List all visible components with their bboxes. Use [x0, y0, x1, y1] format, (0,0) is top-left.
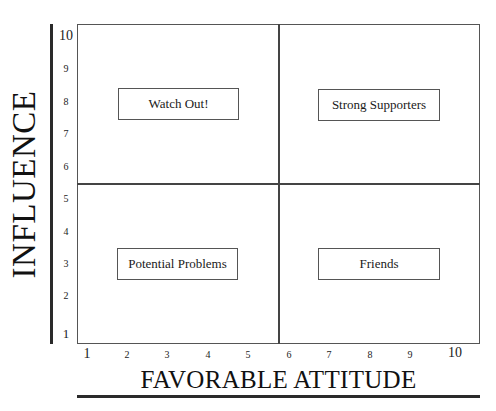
y-tick: 9	[58, 63, 74, 74]
y-tick: 8	[58, 96, 74, 107]
x-tick: 1	[77, 346, 97, 362]
x-axis-rule	[77, 395, 480, 398]
y-tick: 1	[58, 326, 74, 342]
x-tick: 10	[443, 345, 467, 361]
x-tick: 8	[360, 349, 380, 360]
y-axis-title: INFLUENCE	[3, 24, 47, 344]
x-tick: 7	[319, 349, 339, 360]
y-axis-rule	[50, 24, 53, 344]
x-tick: 2	[117, 349, 137, 360]
y-tick: 3	[58, 258, 74, 269]
y-tick: 10	[58, 28, 74, 44]
y-tick: 5	[58, 193, 74, 204]
x-tick: 6	[279, 349, 299, 360]
x-axis-title: FAVORABLE ATTITUDE	[77, 366, 480, 394]
x-tick: 4	[198, 349, 218, 360]
x-tick: 9	[400, 349, 420, 360]
y-tick: 2	[58, 290, 74, 301]
x-tick: 5	[238, 349, 258, 360]
y-tick: 4	[58, 226, 74, 237]
quadrant-label-watch-out: Watch Out!	[118, 88, 239, 120]
quadrant-label-friends: Friends	[318, 248, 440, 280]
quadrant-label-strong-supporters: Strong Supporters	[318, 89, 440, 121]
horizontal-divider	[77, 183, 480, 185]
y-tick: 6	[58, 161, 74, 172]
y-tick: 7	[58, 128, 74, 139]
quadrant-label-potential-problems: Potential Problems	[117, 248, 238, 280]
x-tick: 3	[157, 349, 177, 360]
